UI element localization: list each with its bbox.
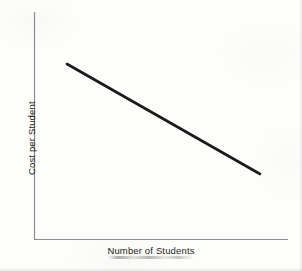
data-line-cost-per-student (67, 64, 260, 174)
y-axis-label: Cost per Student (26, 101, 37, 175)
plot-area (0, 0, 302, 271)
scan-artifact (108, 256, 194, 259)
chart-figure: Cost per Student Number of Students (0, 0, 302, 271)
x-axis-label: Number of Students (0, 245, 302, 256)
scan-edge-right (299, 0, 302, 271)
